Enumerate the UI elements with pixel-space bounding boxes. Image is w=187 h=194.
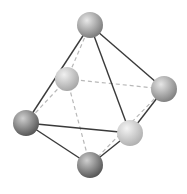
octahedron-diagram xyxy=(0,0,187,194)
visible-edges xyxy=(26,25,164,165)
hidden-edges xyxy=(26,25,164,165)
sphere-top xyxy=(77,12,103,38)
sphere-back-left xyxy=(55,67,79,91)
edge-left-front xyxy=(26,123,130,133)
edge-top-right xyxy=(90,25,164,89)
edge-top-front xyxy=(90,25,130,133)
sphere-bottom xyxy=(77,152,103,178)
sphere-left xyxy=(13,110,39,136)
diagram-canvas xyxy=(0,0,187,194)
sphere-right xyxy=(151,76,177,102)
sphere-front xyxy=(117,120,143,146)
edge-back-left-right xyxy=(67,79,164,89)
spheres xyxy=(13,12,177,178)
